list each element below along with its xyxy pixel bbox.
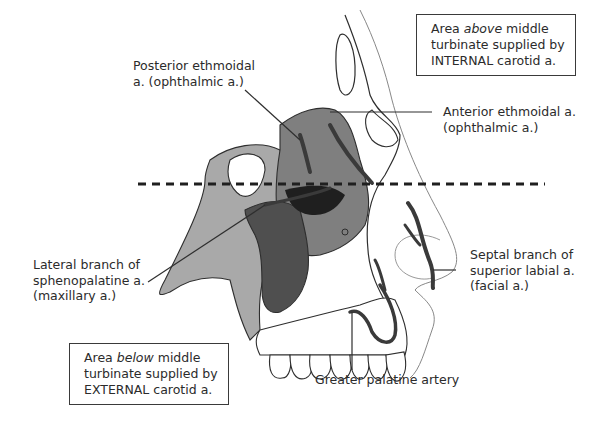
label-sphenopalatine-line3: (maxillary a.) [33,288,145,304]
label-sphenopalatine-line1: Lateral branch of [33,257,145,273]
leader-posterior-ethmoidal [245,90,300,140]
frontal-sinus-outline [336,34,355,95]
box-external-line1: Area below middle [84,350,218,366]
label-posterior-ethmoidal-line2: a. (ophthalmic a.) [133,74,255,90]
nasal-cartilage-outline [366,110,398,147]
label-septal-branch: Septal branch of superior labial a. (fac… [470,247,575,294]
label-greater-palatine: Greater palatine artery [315,372,459,388]
box-internal-line1: Area above middle [431,21,565,37]
label-sphenopalatine: Lateral branch of sphenopalatine a. (max… [33,257,145,304]
label-septal-branch-line1: Septal branch of [470,247,575,263]
label-anterior-ethmoidal-line2: (ophthalmic a.) [443,120,576,136]
nasal-blood-supply-diagram: Posterior ethmoidal a. (ophthalmic a.) A… [0,0,610,426]
box-external-line1-post: middle [154,350,201,365]
label-sphenopalatine-line2: sphenopalatine a. [33,273,145,289]
label-greater-palatine-line1: Greater palatine artery [315,372,459,388]
box-internal-line1-emphasis: above [464,21,502,36]
label-anterior-ethmoidal: Anterior ethmoidal a. (ophthalmic a.) [443,104,576,135]
box-external-line3: EXTERNAL carotid a. [84,382,218,398]
box-external-line1-emphasis: below [117,350,154,365]
label-posterior-ethmoidal-line1: Posterior ethmoidal [133,58,255,74]
box-external-line2: turbinate supplied by [84,366,218,382]
label-septal-branch-line3: (facial a.) [470,278,575,294]
box-internal-line1-post: middle [502,21,549,36]
box-internal-line2: turbinate supplied by [431,37,565,53]
box-internal-line1-pre: Area [431,21,464,36]
box-internal-line3: INTERNAL carotid a. [431,53,565,69]
box-external-line1-pre: Area [84,350,117,365]
box-internal-carotid-supply: Area above middle turbinate supplied by … [416,14,576,76]
label-anterior-ethmoidal-line1: Anterior ethmoidal a. [443,104,576,120]
label-posterior-ethmoidal: Posterior ethmoidal a. (ophthalmic a.) [133,58,255,89]
label-septal-branch-line2: superior labial a. [470,263,575,279]
box-external-carotid-supply: Area below middle turbinate supplied by … [69,343,229,405]
